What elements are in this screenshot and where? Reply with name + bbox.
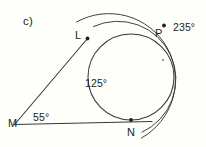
point-label-M: M: [8, 118, 17, 129]
point-dot-L: [86, 37, 90, 41]
tangent-line-ML: [15, 39, 88, 125]
center-dot: [162, 59, 164, 61]
arc-measure-235: 235°: [173, 22, 195, 33]
point-label-P: P: [155, 28, 163, 39]
point-label-N: N: [127, 127, 135, 138]
point-dot-P: [162, 24, 166, 28]
geometry-figure-container: c) L P N M 235° 125° 55°: [0, 0, 206, 147]
part-label: c): [23, 16, 33, 28]
arc-measure-125: 125°: [85, 78, 107, 89]
point-label-L: L: [75, 30, 81, 41]
point-dot-N: [129, 118, 133, 122]
angle-measure-55: 55°: [33, 112, 49, 123]
